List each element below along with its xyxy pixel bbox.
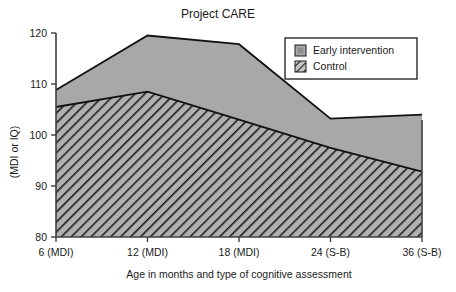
hatched-square-swatch-icon	[295, 61, 306, 72]
legend: Early intervention Control	[285, 38, 417, 79]
legend-label-early-intervention: Early intervention	[313, 44, 394, 56]
x-tick-label: 24 (S-B)	[311, 246, 350, 258]
x-tick-label: 6 (MDI)	[39, 246, 74, 258]
y-tick-label: 100	[29, 129, 47, 141]
y-tick-label: 90	[35, 180, 47, 192]
y-tick-label: 120	[29, 27, 47, 39]
chart-container: 8090100110120 6 (MDI)12 (MDI)18 (MDI)24 …	[0, 0, 456, 292]
x-tick-label: 18 (MDI)	[219, 246, 260, 258]
x-tick-label: 12 (MDI)	[127, 246, 168, 258]
x-tick-label: 36 (S-B)	[402, 246, 441, 258]
legend-item-control[interactable]: Control	[295, 60, 347, 72]
y-tick-label: 80	[35, 231, 47, 243]
legend-label-control: Control	[313, 60, 347, 72]
project-care-area-chart: 8090100110120 6 (MDI)12 (MDI)18 (MDI)24 …	[0, 0, 456, 292]
y-axis-title: (MDI or IQ)	[8, 126, 20, 179]
y-tick-label: 110	[30, 78, 47, 90]
chart-title: Project CARE	[181, 7, 255, 21]
gray-square-swatch-inner-icon	[298, 48, 304, 54]
x-axis-title: Age in months and type of cognitive asse…	[126, 268, 351, 280]
